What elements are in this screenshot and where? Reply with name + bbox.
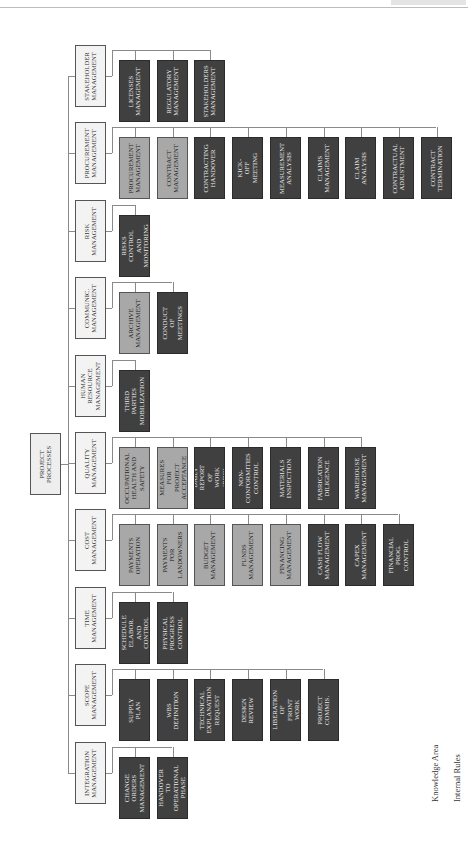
process-technical-explanation-request[interactable]: TECHNICAL EXPLANATION REQUEST [194,679,225,741]
box-label: OCCUPATIONAL HEALTH AND SAFETY [123,452,145,503]
box-label: CLAIMS MANAGEMENT [316,144,331,193]
process-daily-report-of-work-rdo[interactable]: DAILY REPORT OF WORK (RDO) [194,447,225,509]
box-label: SCHEDULE ELABOR. AND CONTROL [120,615,150,650]
connector-line [135,592,136,602]
process-stakeholders-management[interactable]: STAKEHOLDERS MANAGEMENT [194,60,225,122]
process-contracting-handover[interactable]: CONTRACTING HANDOVER [194,137,225,199]
process-procurement-management[interactable]: PROCUREMENT MANAGEMENT [119,137,150,199]
process-fabrication-diligence[interactable]: FABRICATION DILIGENCE [308,447,339,509]
knowledge-area-stakeholder-management[interactable]: STAKEHOLDER MANAGEMENT [75,45,106,107]
box-label: PROJECT COMMIS. [316,695,331,724]
knowledge-area-communic-management[interactable]: COMMUNIC. MANAGEMENT [75,277,106,339]
process-non-conformities-control[interactable]: NON- CONFORMITIES CONTROL [232,447,263,509]
knowledge-area-risk-management[interactable]: RISK MANAGEMENT [75,200,106,262]
connector-line [61,464,68,465]
process-wbs-definition[interactable]: WBS DEFINITION [157,679,188,741]
connector-line [106,463,112,464]
process-materials-inspection[interactable]: MATERIALS INSPECTION [270,447,301,509]
process-capex-management[interactable]: CAPEX MANAGEMENT [345,524,376,586]
connector-line [286,514,287,524]
bus-line [112,282,172,283]
knowledge-area-human-resource-management[interactable]: HUMAN RESOURCE MANAGEMENT [75,355,106,417]
box-label: PROCUREMENT MANAGEMENT [83,128,98,178]
process-financing-management[interactable]: FINANCING MANAGEMENT [270,524,301,586]
connector-line [173,50,174,60]
knowledge-area-cost-management[interactable]: COST MANAGEMENT [75,509,106,571]
process-measurement-analysis[interactable]: MEASUREMENT ANALYSIS [270,137,301,199]
process-payments-operation[interactable]: PAYMENTS OPERATION [119,524,150,586]
process-regulatory-management[interactable]: REGULATORY MANAGEMENT [157,60,188,122]
box-label: PAYMENTS FOR LANDOWNERS [161,531,183,578]
process-design-review[interactable]: DESIGN REVIEW [232,679,263,741]
connector-line [68,463,75,464]
bus-line [112,669,323,670]
connector-line [286,437,287,447]
process-occupational-health-and-safety[interactable]: OCCUPATIONAL HEALTH AND SAFETY [119,447,150,509]
connector-line [68,153,75,154]
process-change-orders-management[interactable]: CHANGE ORDERS MANAGEMENT [119,757,150,819]
connector-line [210,50,211,60]
connector-line [210,514,211,524]
box-label: STAKEHOLDER MANAGEMENT [83,52,98,101]
root-node-project-processes[interactable]: PROJECT PROCESSES [30,433,61,495]
process-cash-flow-management[interactable]: CASH FLOW MANAGEMENT [308,524,339,586]
process-physical-progress-control[interactable]: PHYSICAL PROGRESS CONTROL [157,602,188,664]
knowledge-area-quality-management[interactable]: QUALITY MANAGEMENT [75,432,106,494]
connector-line [173,127,174,137]
knowledge-area-time-management[interactable]: TIME MANAGEMENT [75,587,106,649]
connector-line [68,695,75,696]
box-label: RISK MANAGEMENT [83,207,98,256]
box-label: CASH FLOW MANAGEMENT [316,531,331,580]
connector-line [135,282,136,292]
process-handover-to-operational-phase[interactable]: HANDOVER TO OPERATIONAL PHASE [157,757,188,819]
box-label: MATERIALS INSPECTION [278,458,293,497]
process-financial-prog-control[interactable]: FINANCIAL PROG. CONTROL [383,524,414,586]
process-conduct-of-meetings[interactable]: CONDUCT OF MEETINGS [157,292,188,354]
knowledge-area-procurement-management[interactable]: PROCUREMENT MANAGEMENT [75,122,106,184]
process-third-parties-mobilization[interactable]: THIRD PARTIES MOBILIZATION [119,370,150,432]
connector-line [173,592,174,602]
process-payments-for-landowners[interactable]: PAYMENTS FOR LANDOWNERS [157,524,188,586]
process-claims-management[interactable]: CLAIMS MANAGEMENT [308,137,339,199]
header-fragment [391,0,466,5]
connector-line [248,437,249,447]
process-licenses-management[interactable]: LICENSES MANAGEMENT [119,60,150,122]
process-measures-for-project-acceptance[interactable]: MEASURES FOR PROJECT ACCEPTANCE [157,447,188,509]
connector-line [248,669,249,679]
box-label: COST MANAGEMENT [83,516,98,565]
connector-line [135,514,136,524]
connector-line [112,747,113,773]
box-label: REGULATORY MANAGEMENT [165,67,180,116]
process-kick-off-meeting[interactable]: KICK-OFF MEETING [232,137,263,199]
knowledge-area-scope-management[interactable]: SCOPE MANAGEMENT [75,664,106,726]
process-project-commis[interactable]: PROJECT COMMIS. [308,679,339,741]
connector-line [68,308,75,309]
connector-line [173,747,174,757]
box-label: INTEGRATION MANAGEMENT [83,749,98,798]
process-contractual-adjustment[interactable]: CONTRACTUAL ADJUSTMENT [383,137,414,199]
connector-line [112,514,113,540]
connector-line [210,437,211,447]
process-archive-management[interactable]: ARCHIVE MANAGEMENT [119,292,150,354]
process-contract-management[interactable]: CONTRACT MANAGEMENT [157,137,188,199]
connector-line [106,308,112,309]
process-liberation-of-front-work[interactable]: LIBERATION OF FRONT WORK [270,679,301,741]
process-contract-termination[interactable]: CONTRACT TERMINATION [421,137,452,199]
connector-line [286,127,287,137]
bus-line [112,127,436,128]
connector-line [68,231,75,232]
connector-line [112,360,113,386]
process-claim-analysis[interactable]: CLAIM ANALYSIS [345,137,376,199]
bus-line [112,747,172,748]
process-risks-control-and-monitoring[interactable]: RISKS CONTROL AND MONITORING [119,215,150,277]
knowledge-area-integration-management[interactable]: INTEGRATION MANAGEMENT [75,742,106,804]
box-label: COMMUNIC. MANAGEMENT [83,284,98,333]
process-supply-plan[interactable]: SUPPLY PLAN [119,679,150,741]
process-schedule-elabor-and-control[interactable]: SCHEDULE ELABOR. AND CONTROL [119,602,150,664]
process-funds-management[interactable]: FUNDS MANAGEMENT [232,524,263,586]
connector-line [112,669,113,695]
process-budget-management[interactable]: BUDGET MANAGEMENT [194,524,225,586]
process-warehouse-management[interactable]: WAREHOUSE MANAGEMENT [345,447,376,509]
connector-line [210,669,211,679]
bus-line [112,592,172,593]
